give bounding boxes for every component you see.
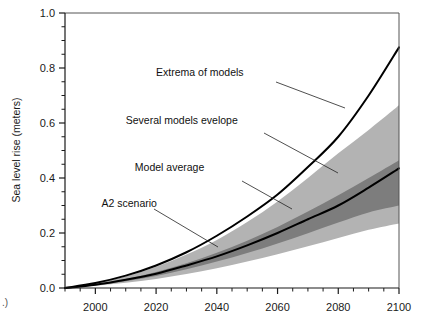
y-tick-label: 1.0 <box>40 7 55 19</box>
corner-mark: .) <box>2 297 8 308</box>
figure-container: 0.00.20.40.60.81.0 200020202040206020802… <box>0 0 421 333</box>
x-tick-label: 2100 <box>387 301 411 313</box>
y-tick-label: 0.8 <box>40 62 55 74</box>
annotation-a2-scenario: A2 scenario <box>101 197 157 209</box>
annotation-model-average: Model average <box>135 161 205 173</box>
x-tick-label: 2020 <box>144 301 168 313</box>
x-tick-label: 2040 <box>205 301 229 313</box>
y-axis-title: Sea level rise (meters) <box>10 97 22 202</box>
y-tick-label: 0.0 <box>40 282 55 294</box>
sea-level-rise-chart: 0.00.20.40.60.81.0 200020202040206020802… <box>0 0 421 333</box>
y-tick-label: 0.4 <box>40 172 55 184</box>
x-tick-label: 2080 <box>326 301 350 313</box>
annotation-extrema-of-models: Extrema of models <box>156 66 244 78</box>
x-tick-label: 2060 <box>265 301 289 313</box>
y-tick-label: 0.2 <box>40 227 55 239</box>
x-tick-label: 2000 <box>83 301 107 313</box>
y-tick-label: 0.6 <box>40 117 55 129</box>
annotation-several-models-evelope: Several models evelope <box>126 114 238 126</box>
